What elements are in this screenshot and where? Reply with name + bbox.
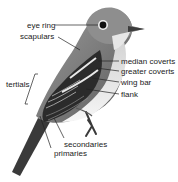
eye <box>100 22 107 29</box>
label-scapulars: scapulars <box>20 32 54 41</box>
label-flank: flank <box>121 90 138 99</box>
label-greater-coverts: greater coverts <box>121 67 174 76</box>
label-median-coverts: median coverts <box>121 57 175 66</box>
label-wing-bar: wing bar <box>121 78 151 87</box>
tail <box>12 118 50 176</box>
leader-scapulars <box>58 37 80 50</box>
label-secondaries: secondaries <box>64 140 107 149</box>
tertials-bracket <box>25 74 38 104</box>
bird-bill <box>128 26 145 32</box>
label-eye-ring: eye ring <box>27 21 55 30</box>
label-primaries: primaries <box>54 149 87 158</box>
label-tertials: tertials <box>6 80 30 89</box>
